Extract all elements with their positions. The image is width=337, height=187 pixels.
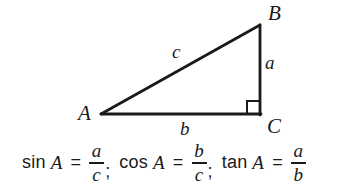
cosine-argument: A xyxy=(153,152,165,174)
side-label-a: a xyxy=(265,53,275,72)
triangle-side-c-hypotenuse xyxy=(101,25,260,114)
right-angle-marker-icon xyxy=(247,101,260,114)
vertex-label-a: A xyxy=(78,103,91,124)
formula-cosine: cos A = b c ; xyxy=(119,141,221,185)
sine-equals-sign: = xyxy=(70,152,81,173)
triangle-diagram xyxy=(0,0,337,140)
sine-separator: ; xyxy=(105,161,110,182)
side-label-c: c xyxy=(172,42,180,61)
sine-denominator: c xyxy=(90,165,103,185)
cosine-equals-sign: = xyxy=(173,152,184,173)
tangent-argument: A xyxy=(252,152,264,174)
vertex-label-b: B xyxy=(268,3,281,24)
sine-function-name: sin xyxy=(22,152,46,173)
tangent-denominator: b xyxy=(292,165,306,185)
formula-tangent: tan A = a b xyxy=(222,141,307,185)
sine-numerator: a xyxy=(90,141,104,161)
cosine-fraction: b c xyxy=(192,141,207,185)
tangent-numerator: a xyxy=(292,141,306,161)
tangent-function-name: tan xyxy=(222,152,248,173)
side-label-b: b xyxy=(180,119,190,138)
cosine-denominator: c xyxy=(193,165,206,185)
cosine-separator: ; xyxy=(208,161,213,182)
sine-fraction: a c xyxy=(89,141,104,185)
cosine-function-name: cos xyxy=(119,152,148,173)
trig-ratio-formulas: sin A = a c ; cos A = b c ; tan xyxy=(0,138,337,187)
cosine-numerator: b xyxy=(192,141,206,161)
sine-argument: A xyxy=(51,152,63,174)
formula-sine: sin A = a c ; xyxy=(22,141,119,185)
tangent-fraction: a b xyxy=(291,141,306,185)
tangent-equals-sign: = xyxy=(272,152,283,173)
vertex-label-c: C xyxy=(267,116,281,137)
trigonometry-figure: A B C a b c sin A = a c ; cos A = b c xyxy=(0,0,337,187)
